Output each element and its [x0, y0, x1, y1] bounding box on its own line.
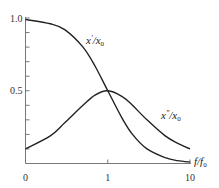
series-x-prime-label: x′/x0 [85, 34, 105, 48]
x-tick-label: 10 [185, 172, 195, 183]
x-tick-label: 0 [23, 172, 28, 183]
series-x-double-prime-label: x″/x0 [160, 109, 181, 123]
y-axis-ticks: 0.51.0 [10, 13, 30, 149]
y-tick-label: 0.5 [10, 85, 23, 96]
x-tick-label: 1 [105, 172, 110, 183]
y-tick-label: 1.0 [10, 13, 23, 24]
x-axis-label: f/f0 [194, 155, 207, 169]
chart-canvas: 0.51.0 0110 x′/x0 x″/x0 f/f0 [0, 0, 219, 188]
